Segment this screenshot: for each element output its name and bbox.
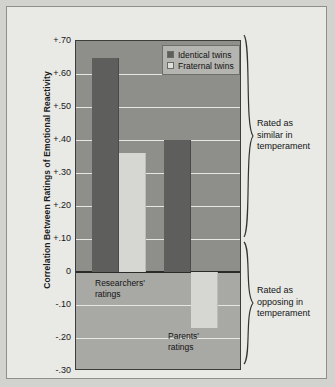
y-tick-label: +.70 bbox=[33, 35, 71, 45]
annotation-line3: temperament bbox=[257, 141, 310, 151]
annotation-line2: similar in bbox=[257, 130, 293, 140]
y-tick-label: +.30 bbox=[33, 167, 71, 177]
chart-frame: Correlation Between Ratings of Emotional… bbox=[6, 6, 327, 379]
y-tick-label: +.20 bbox=[33, 200, 71, 210]
y-tick-label: -.10 bbox=[33, 299, 71, 309]
legend-swatch-icon bbox=[167, 51, 174, 58]
annotation-line3: temperament bbox=[257, 308, 310, 318]
y-axis-tick-labels: +.70 +.60 +.50 +.40 +.30 +.20 +.10 0 -.1… bbox=[33, 40, 71, 370]
y-tick-label: -.20 bbox=[33, 332, 71, 342]
plot-area: Researchers' ratings Parents' ratings Id… bbox=[75, 40, 241, 370]
y-tick-label: +.10 bbox=[33, 233, 71, 243]
legend-item-fraternal: Fraternal twins bbox=[167, 60, 234, 71]
legend-swatch-icon bbox=[167, 62, 174, 69]
group-label-line1: Researchers' bbox=[95, 278, 145, 288]
annotation-line1: Rated as bbox=[257, 118, 293, 128]
figure-container: Correlation Between Ratings of Emotional… bbox=[0, 0, 335, 387]
group-label-line2: ratings bbox=[168, 342, 194, 352]
annotation-line2: opposing in bbox=[257, 297, 303, 307]
legend-label: Identical twins bbox=[178, 50, 231, 60]
bar-identical-researchers bbox=[92, 58, 119, 273]
legend-item-identical: Identical twins bbox=[167, 49, 234, 60]
y-tick-label: -.30 bbox=[33, 365, 71, 375]
group-label-line1: Parents' bbox=[168, 331, 199, 341]
brace-similar-icon bbox=[243, 34, 255, 238]
annotation-similar: Rated as similar in temperament bbox=[257, 118, 310, 153]
gridline bbox=[76, 338, 240, 339]
group-label-line2: ratings bbox=[95, 289, 121, 299]
legend-label: Fraternal twins bbox=[178, 61, 234, 71]
bar-fraternal-researchers bbox=[119, 153, 146, 272]
y-tick-label: +.60 bbox=[33, 68, 71, 78]
bar-fraternal-parents bbox=[191, 272, 218, 328]
annotation-line1: Rated as bbox=[257, 285, 293, 295]
y-tick-label: +.40 bbox=[33, 134, 71, 144]
group-label-researchers: Researchers' ratings bbox=[95, 278, 145, 300]
group-label-parents: Parents' ratings bbox=[168, 331, 199, 353]
bar-identical-parents bbox=[164, 140, 191, 272]
legend: Identical twins Fraternal twins bbox=[162, 45, 240, 75]
annotation-opposing: Rated as opposing in temperament bbox=[257, 285, 310, 320]
y-tick-label: 0 bbox=[33, 266, 71, 276]
brace-opposing-icon bbox=[243, 241, 255, 365]
y-tick-label: +.50 bbox=[33, 101, 71, 111]
